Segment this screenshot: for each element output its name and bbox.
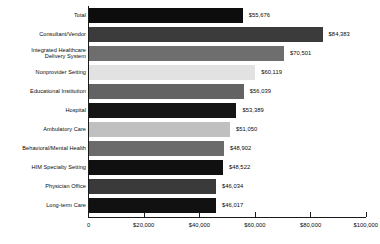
bar (88, 141, 224, 155)
bar (88, 103, 236, 117)
bar-row: Ambulatory Care$51,050 (0, 122, 380, 136)
bar (88, 84, 244, 98)
x-axis-line (88, 217, 366, 218)
bar-row: Physician Office$46,034 (0, 179, 380, 193)
bar (88, 179, 216, 193)
bar-value-label: $84,383 (329, 31, 350, 37)
bar (88, 8, 243, 22)
x-axis-tick-label: $60,000 (244, 222, 265, 228)
bar (88, 65, 255, 79)
x-axis-tick (255, 212, 256, 217)
bar-value-label: $46,034 (222, 183, 243, 189)
x-axis-tick (310, 212, 311, 217)
bar-chart: Total$55,676Consultant/Vendor$84,383Inte… (0, 0, 380, 244)
category-label: Integrated Healthcare Delivery System (31, 47, 86, 60)
bar (88, 27, 323, 41)
x-axis-tick-label: $40,000 (189, 222, 210, 228)
bar (88, 122, 230, 136)
bar-row: Educational Institution$56,039 (0, 84, 380, 98)
category-label: Physician Office (45, 183, 86, 190)
bar-value-label: $46,017 (222, 202, 243, 208)
bar-row: HIM Specialty Setting$48,522 (0, 160, 380, 174)
category-label: Educational Institution (30, 88, 86, 95)
x-axis-tick-label: $100,000 (354, 222, 379, 228)
bar-value-label: $51,050 (236, 126, 257, 132)
bar-row: Long-term Care$46,017 (0, 198, 380, 212)
bar-value-label: $48,522 (229, 164, 250, 170)
bar-row: Integrated Healthcare Delivery System$70… (0, 46, 380, 60)
category-label: Long-term Care (46, 202, 86, 209)
bar-value-label: $55,676 (249, 12, 270, 18)
bar-row: Total$55,676 (0, 8, 380, 22)
bar (88, 46, 284, 60)
bar-row: Nonprovider Setting$60,119 (0, 65, 380, 79)
bar-row: Hospital$53,389 (0, 103, 380, 117)
category-label: Total (74, 12, 86, 19)
bar-row: Consultant/Vendor$84,383 (0, 27, 380, 41)
bar-value-label: $70,501 (290, 50, 311, 56)
x-axis-tick (366, 212, 367, 217)
x-axis-tick (144, 212, 145, 217)
bar-row: Behavioral/Mental Health$48,902 (0, 141, 380, 155)
plot-area: Total$55,676Consultant/Vendor$84,383Inte… (0, 0, 380, 244)
category-label: Ambulatory Care (43, 126, 86, 133)
bar (88, 198, 216, 212)
bar-value-label: $53,389 (242, 107, 263, 113)
x-axis-tick-label: 0 (87, 222, 90, 228)
bar-value-label: $56,039 (250, 88, 271, 94)
x-axis-tick-label: $20,000 (133, 222, 154, 228)
category-label: Behavioral/Mental Health (22, 145, 86, 152)
x-axis-tick (199, 212, 200, 217)
category-label: Consultant/Vendor (39, 31, 86, 38)
y-axis-line (88, 6, 89, 217)
bar-value-label: $60,119 (261, 69, 282, 75)
category-label: Hospital (65, 107, 86, 114)
category-label: HIM Specialty Setting (31, 164, 86, 171)
x-axis-tick-label: $80,000 (300, 222, 321, 228)
category-label: Nonprovider Setting (36, 69, 86, 76)
bar (88, 160, 223, 174)
bar-value-label: $48,902 (230, 145, 251, 151)
